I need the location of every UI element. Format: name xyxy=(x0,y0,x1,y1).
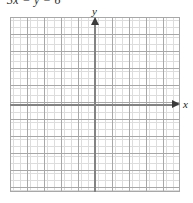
x-axis xyxy=(10,104,173,106)
y-axis-arrow-icon xyxy=(91,17,99,25)
x-axis-label: x xyxy=(183,99,188,110)
y-axis-label: y xyxy=(92,6,97,17)
equation-caption: 3x − y = 6 xyxy=(7,0,61,6)
y-axis xyxy=(94,23,96,192)
x-axis-arrow-icon xyxy=(172,100,180,108)
graph-worksheet-figure: 3x − y = 6 y x xyxy=(0,0,193,203)
